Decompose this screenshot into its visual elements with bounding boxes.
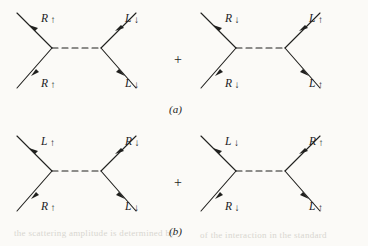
label-outgoing-top: L↑	[309, 13, 323, 25]
label-incoming-bottom: R↓	[225, 78, 240, 90]
spin-arrow: ↑	[316, 137, 324, 148]
diagram-a-1: R↑ R↑ L↓ L↓	[0, 0, 184, 111]
label-outgoing-bottom: L↑	[309, 78, 323, 90]
spin-arrow: ↓	[131, 202, 139, 213]
particle-symbol: R	[225, 200, 232, 212]
particle-symbol: R	[225, 77, 232, 89]
label-outgoing-bottom: L↓	[125, 201, 139, 213]
label-outgoing-bottom: L↓	[125, 78, 139, 90]
particle-symbol: R	[125, 135, 132, 147]
particle-symbol: R	[225, 12, 232, 24]
particle-symbol: R	[309, 135, 316, 147]
diagram-b-2: L↓ R↓ R↑ L↑	[184, 123, 368, 234]
label-outgoing-top: R↓	[125, 136, 140, 148]
label-incoming-top: L↑	[41, 136, 55, 148]
diagram-b-2-lines	[184, 123, 368, 234]
label-outgoing-top: R↑	[309, 136, 324, 148]
figure-canvas: the scattering amplitude is determined b…	[0, 0, 368, 246]
spin-arrow: ↑	[315, 79, 323, 90]
caption-b: (b)	[169, 226, 182, 237]
spin-arrow: ↑	[48, 14, 56, 25]
label-outgoing-bottom: L↑	[309, 201, 323, 213]
spin-arrow: ↓	[131, 14, 139, 25]
label-incoming-bottom: R↓	[225, 201, 240, 213]
spin-arrow: ↓	[232, 79, 240, 90]
spin-arrow: ↓	[232, 202, 240, 213]
spin-arrow: ↓	[232, 14, 240, 25]
diagram-a-1-lines	[0, 0, 184, 111]
diagram-a-2: R↓ R↓ L↑ L↑	[184, 0, 368, 111]
label-incoming-top: R↑	[41, 13, 56, 25]
spin-arrow: ↓	[132, 137, 140, 148]
label-incoming-top: R↓	[225, 13, 240, 25]
diagram-b-1-lines	[0, 123, 184, 234]
particle-symbol: R	[41, 77, 48, 89]
caption-a: (a)	[169, 104, 182, 115]
spin-arrow: ↑	[48, 79, 56, 90]
plus-operator-a: +	[174, 53, 182, 67]
spin-arrow: ↑	[47, 137, 55, 148]
plus-operator-b: +	[174, 176, 182, 190]
diagram-b-1: L↑ R↑ R↓ L↓	[0, 123, 184, 234]
spin-arrow: ↓	[231, 137, 239, 148]
label-outgoing-top: L↓	[125, 13, 139, 25]
spin-arrow: ↑	[315, 202, 323, 213]
particle-symbol: R	[41, 200, 48, 212]
label-incoming-bottom: R↑	[41, 78, 56, 90]
particle-symbol: R	[41, 12, 48, 24]
label-incoming-top: L↓	[225, 136, 239, 148]
diagram-a-2-lines	[184, 0, 368, 111]
spin-arrow: ↑	[315, 14, 323, 25]
spin-arrow: ↑	[48, 202, 56, 213]
spin-arrow: ↓	[131, 79, 139, 90]
label-incoming-bottom: R↑	[41, 201, 56, 213]
